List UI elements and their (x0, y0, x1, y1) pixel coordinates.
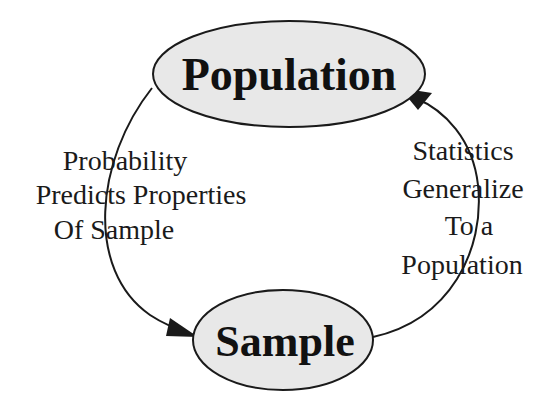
left-edge-label: Probability Predicts Properties Of Sampl… (36, 145, 247, 245)
right-label-line-2: Generalize (402, 173, 523, 204)
node-population: Population (153, 21, 425, 127)
left-label-line-2: Predicts Properties (36, 179, 247, 210)
population-label: Population (182, 49, 397, 100)
right-label-line-1: Statistics (412, 135, 513, 166)
right-label-line-4: Population (401, 249, 522, 280)
right-label-line-3: To a (445, 210, 494, 241)
left-label-line-3: Of Sample (54, 214, 175, 245)
left-label-line-1: Probability (63, 145, 187, 176)
right-edge-label: Statistics Generalize To a Population (401, 135, 523, 280)
node-sample: Sample (193, 290, 373, 390)
edge-population-to-sample (105, 88, 198, 337)
sample-label: Sample (215, 317, 354, 366)
population-sample-cycle-diagram: Population Sample Probability Predicts P… (0, 0, 548, 403)
left-arc-arrow (105, 88, 196, 336)
